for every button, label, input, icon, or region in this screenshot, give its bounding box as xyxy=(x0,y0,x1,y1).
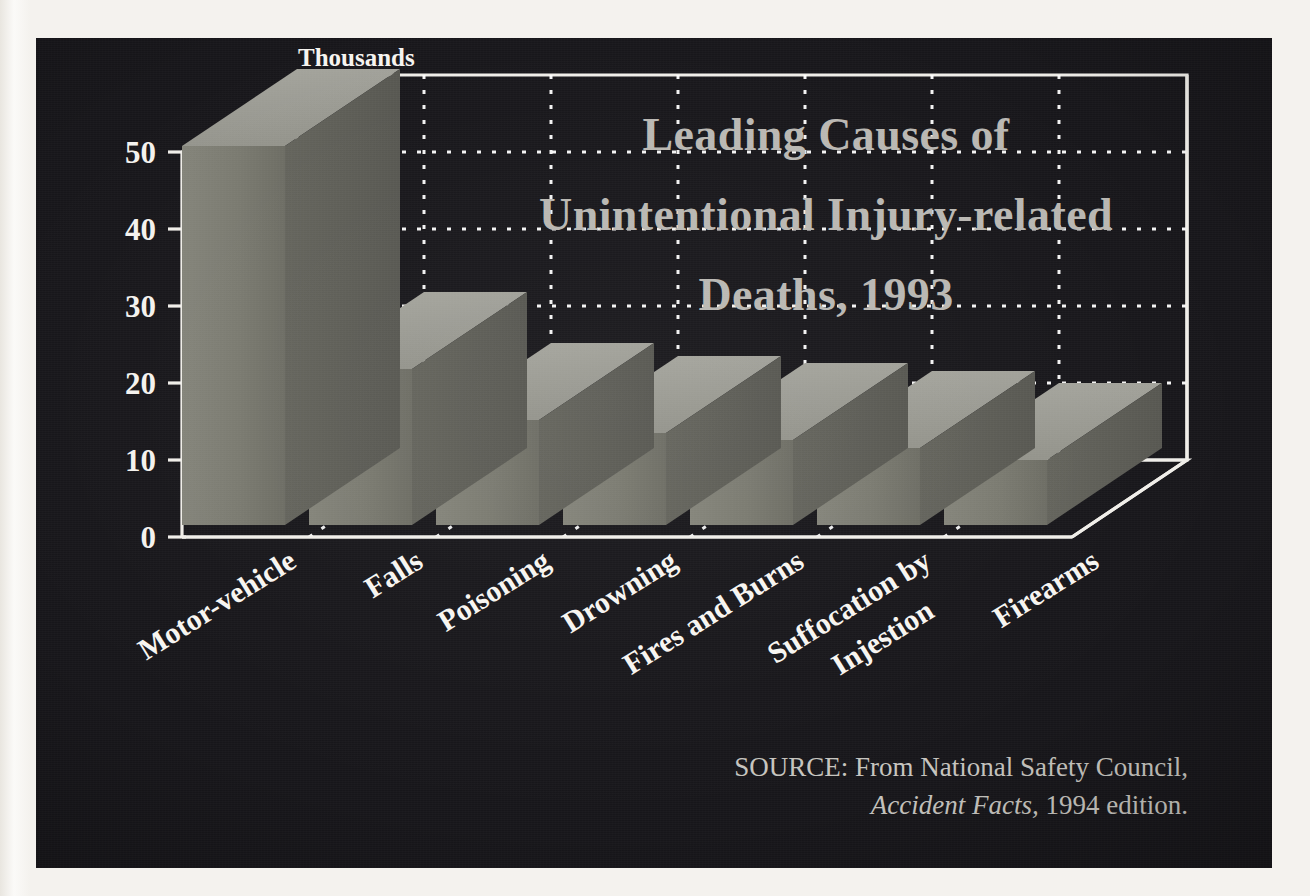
ytick-label-10: 10 xyxy=(125,443,156,478)
chart-title: Leading Causes of Unintentional Injury-r… xyxy=(539,109,1113,320)
chart-plate: 50 40 30 20 10 0 Thousands xyxy=(36,38,1272,868)
cat-label-poisoning: Poisoning xyxy=(432,543,556,637)
source-line-1: SOURCE: From National Safety Council, xyxy=(734,752,1188,782)
cat-label-falls: Falls xyxy=(358,543,428,604)
ytick-label-30: 30 xyxy=(125,289,156,324)
source-note: SOURCE: From National Safety Council, Ac… xyxy=(734,752,1188,820)
source-line-2: Accident Facts, 1994 edition. xyxy=(869,790,1188,820)
ytick-label-20: 20 xyxy=(125,366,156,401)
bar-chart-3d: 50 40 30 20 10 0 Thousands xyxy=(36,38,1272,868)
source-publication: Accident Facts, xyxy=(869,790,1039,820)
bar-motor-vehicle[interactable] xyxy=(182,69,400,525)
y-tick-labels: 50 40 30 20 10 0 xyxy=(125,135,156,555)
y-axis-units-label: Thousands xyxy=(298,44,415,71)
title-line-1: Leading Causes of xyxy=(642,109,1009,160)
title-line-2: Unintentional Injury-related xyxy=(539,189,1113,240)
figure-page: 50 40 30 20 10 0 Thousands xyxy=(0,0,1310,896)
category-labels: Motor-vehicle Falls Poisoning Drowning F… xyxy=(132,543,1104,681)
ytick-label-0: 0 xyxy=(141,520,157,555)
cat-label-firearms: Firearms xyxy=(987,543,1104,633)
source-edition: 1994 edition. xyxy=(1039,790,1188,820)
ytick-label-50: 50 xyxy=(125,135,156,170)
title-line-3: Deaths, 1993 xyxy=(698,269,953,320)
ytick-label-40: 40 xyxy=(125,212,156,247)
cat-label-motor-vehicle: Motor-vehicle xyxy=(132,543,301,666)
